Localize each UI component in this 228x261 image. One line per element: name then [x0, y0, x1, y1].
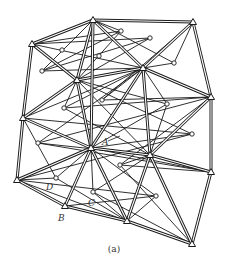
- baseline-edge-inner: [23, 118, 91, 148]
- point-label-a: A: [101, 137, 109, 147]
- minor-point-icon: [119, 29, 123, 33]
- minor-point-icon: [62, 106, 66, 110]
- network-line: [65, 196, 156, 206]
- network-line: [93, 192, 192, 244]
- point-label-d: D: [45, 182, 53, 192]
- minor-point-icon: [36, 141, 40, 145]
- baseline-edge-inner: [143, 22, 193, 68]
- minor-point-icon: [100, 98, 104, 102]
- network-line: [93, 155, 150, 192]
- figure-caption: (a): [108, 244, 120, 254]
- baseline-edge-inner: [150, 97, 211, 155]
- baseline-edge-inner: [193, 22, 211, 97]
- minor-point-icon: [148, 36, 152, 40]
- minor-point-icon: [165, 102, 169, 106]
- baseline-edge-inner: [17, 118, 23, 180]
- minor-point-icon: [154, 194, 158, 198]
- baseline-edge-inner: [23, 44, 32, 118]
- minor-point-icon: [54, 176, 58, 180]
- baseline-edge-inner: [93, 20, 143, 68]
- minor-point-icon: [91, 190, 95, 194]
- point-label-c: C: [88, 198, 95, 208]
- network-line: [174, 22, 193, 63]
- minor-point-icon: [172, 61, 176, 65]
- point-label-b: B: [57, 213, 65, 223]
- baseline-edge-inner: [32, 20, 93, 44]
- triangulation-stations: [14, 17, 215, 247]
- minor-point-icon: [40, 69, 44, 73]
- baseline-edge-inner: [17, 180, 65, 206]
- minor-point-icon: [60, 48, 64, 52]
- network-line: [93, 20, 174, 63]
- baseline-edge-inner: [192, 172, 211, 244]
- minor-point-icon: [118, 163, 122, 167]
- minor-point-icon: [97, 54, 101, 58]
- baseline-edge-inner: [91, 68, 143, 148]
- triangulation-network-diagram: ADCB (a): [0, 0, 228, 261]
- minor-point-icon: [190, 132, 194, 136]
